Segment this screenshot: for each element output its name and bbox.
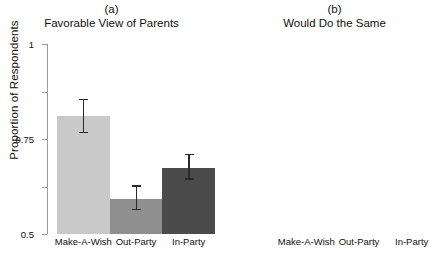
y-tick: 0.75 — [42, 92, 47, 93]
y-tick-label: 0.5 — [21, 229, 34, 240]
error-bar-cap-upper — [185, 154, 194, 155]
error-bar-cap-upper — [132, 185, 141, 186]
y-tick: 0.25 — [42, 187, 47, 188]
error-bar-cap-upper — [79, 99, 88, 100]
x-axis-tick-label: Make-A-Wish — [55, 236, 112, 247]
error-bar-stem — [188, 155, 189, 180]
x-axis-tick-label: Out-Party — [339, 236, 380, 247]
bar — [57, 116, 110, 234]
panel-a: (a) Favorable View of Parents 00.250.50.… — [0, 0, 223, 263]
figure-root: Proportion of Respondents (a) Favorable … — [0, 0, 446, 263]
panel-a-title: Favorable View of Parents — [0, 16, 223, 30]
x-axis-tick-label: In-Party — [395, 236, 428, 247]
x-axis-tick-label: In-Party — [172, 236, 205, 247]
error-bar-cap-lower — [79, 132, 88, 133]
y-tick-label: 1 — [29, 39, 34, 50]
y-tick: 0 — [42, 234, 47, 235]
error-bar-stem — [136, 187, 137, 211]
error-bar-cap-lower — [185, 178, 194, 179]
panel-b: (b) Would Do the Same Make-A-WishOut-Par… — [223, 0, 446, 263]
y-tick: 0.5 — [42, 139, 47, 140]
x-axis-tick-label: Out-Party — [116, 236, 157, 247]
bar-group-a — [57, 44, 215, 234]
y-tick: 1 — [42, 44, 47, 45]
plot-area-a: 00.250.50.751 — [47, 44, 215, 234]
panel-b-header: (b) Would Do the Same — [223, 2, 446, 30]
error-bar-stem — [83, 100, 84, 133]
panel-a-header: (a) Favorable View of Parents — [0, 2, 223, 30]
y-tick-label: 0.75 — [16, 134, 35, 145]
error-bar-cap-lower — [132, 209, 141, 210]
panel-b-tag: (b) — [223, 2, 446, 16]
panel-b-title: Would Do the Same — [223, 16, 446, 30]
panel-a-tag: (a) — [0, 2, 223, 16]
x-axis-tick-label: Make-A-Wish — [278, 236, 335, 247]
y-axis-line-a — [47, 44, 48, 234]
